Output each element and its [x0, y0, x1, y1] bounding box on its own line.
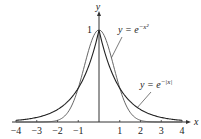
x-tick-label: −4: [11, 125, 22, 136]
label-exp-abs: y = e−|x|: [139, 78, 172, 90]
y-tick-label: 1: [87, 24, 92, 35]
y-axis-label: y: [95, 1, 101, 12]
chart: −4−3−2−112341xy y = e−x²y = e−|x|: [0, 0, 201, 139]
axes: −4−3−2−112341xy: [11, 1, 199, 136]
x-tick-label: −3: [31, 125, 42, 136]
x-axis-arrow-icon: [186, 120, 191, 124]
x-axis-label: x: [193, 116, 199, 127]
x-tick-label: −2: [52, 125, 63, 136]
labels: y = e−x²y = e−|x|: [111, 23, 172, 108]
x-tick-label: 1: [117, 125, 122, 136]
label-gaussian: y = e−x²: [117, 23, 149, 35]
label-gaussian-leader: [111, 37, 122, 58]
x-tick-label: 2: [138, 125, 143, 136]
x-tick-label: −1: [73, 125, 84, 136]
x-tick-label: 3: [159, 125, 164, 136]
label-exp-abs-leader: [137, 92, 151, 108]
x-tick-label: 4: [180, 125, 185, 136]
